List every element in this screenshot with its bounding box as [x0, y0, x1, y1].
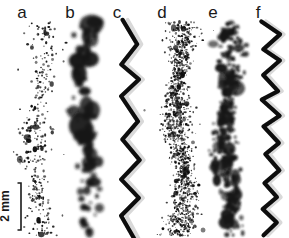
speckle-dot [41, 90, 44, 92]
speckle-dot [193, 167, 195, 170]
speckle-dot [36, 193, 37, 194]
speckle-dot [184, 50, 185, 51]
blob [234, 135, 237, 138]
speckle-dot [188, 213, 189, 214]
speckle-dot [196, 213, 199, 215]
speckle-dot [213, 30, 214, 31]
speckle-dot [187, 225, 190, 227]
blob [235, 105, 237, 109]
speckle-dot [179, 71, 181, 72]
speckle-dot [184, 35, 186, 37]
speckle-dot [28, 186, 29, 188]
speckle-dot [183, 124, 184, 125]
speckle-dot [35, 175, 36, 176]
speckle-dot [183, 100, 185, 102]
speckle-dot [186, 104, 189, 107]
speckle-dot [174, 104, 176, 106]
speckle-dot [184, 56, 186, 58]
speckle-dot [184, 222, 185, 224]
speckle-dot [50, 47, 52, 49]
speckle-dot [178, 156, 179, 157]
speckle-dot [184, 109, 186, 110]
speckle-dot [182, 128, 184, 129]
speckle-dot [175, 144, 177, 146]
speckle-dot [161, 217, 163, 219]
speckle-dot [27, 136, 29, 138]
speckle-dot [183, 214, 185, 215]
blob [229, 22, 233, 25]
panel-label-a: a [17, 3, 27, 22]
speckle-dot [33, 199, 35, 201]
blob [236, 24, 239, 28]
speckle-dot [162, 39, 164, 41]
speckle-dot [185, 51, 187, 54]
speckle-dot [25, 151, 28, 154]
speckle-dot [38, 126, 39, 127]
speckle-dot [168, 61, 169, 63]
speckle-dot [184, 134, 186, 135]
speckle-dot [172, 76, 173, 77]
speckle-dot [41, 71, 44, 74]
blob [96, 187, 102, 192]
speckle-dot [181, 189, 183, 191]
speckle-dot [184, 72, 186, 74]
speckle-dot [44, 26, 46, 29]
speckle-dot [42, 122, 43, 124]
speckle-dot [186, 44, 188, 46]
speckle-dot [168, 119, 169, 120]
speckle-dot [34, 131, 35, 132]
speckle-dot [34, 195, 35, 196]
speckle-dot [179, 36, 181, 37]
speckle-dot [188, 145, 190, 148]
speckle-dot [177, 84, 181, 89]
speckle-dot [182, 194, 183, 195]
speckle-dot [174, 60, 175, 62]
speckle-dot [33, 169, 36, 171]
speckle-dot [176, 173, 177, 174]
blob [208, 149, 210, 151]
speckle-dot [48, 217, 49, 218]
speckle-dot [180, 226, 181, 227]
speckle-dot [182, 207, 183, 209]
speckle-dot [41, 185, 43, 187]
speckle-dot [186, 151, 188, 153]
speckle-dot [44, 117, 46, 119]
speckle-dot [42, 158, 44, 160]
speckle-dot [43, 175, 46, 177]
speckle-dot [167, 116, 169, 118]
speckle-dot [181, 61, 182, 62]
speckle-dot [193, 21, 195, 23]
speckle-dot [184, 146, 186, 148]
speckle-dot [36, 217, 40, 224]
speckle-dot [186, 58, 188, 61]
speckle-dot [182, 162, 183, 163]
blob [216, 64, 221, 69]
speckle-dot [168, 82, 169, 83]
speckle-dot [185, 170, 186, 171]
speckle-dot [170, 116, 172, 118]
speckle-dot [189, 182, 191, 184]
speckle-dot [37, 144, 39, 145]
speckle-dot [177, 109, 178, 110]
speckle-dot [175, 181, 178, 183]
speckle-dot [173, 195, 175, 197]
speckle-dot [175, 32, 177, 35]
speckle-dot [40, 55, 41, 56]
speckle-dot [184, 38, 185, 39]
speckle-dot [37, 28, 39, 30]
speckle-dot [178, 162, 180, 164]
speckle-dot [184, 157, 186, 160]
speckle-dot [172, 124, 173, 125]
speckle-dot [167, 123, 169, 126]
blob [227, 60, 230, 63]
blob [233, 44, 244, 52]
speckle-dot [39, 86, 41, 88]
speckle-dot [28, 161, 30, 163]
blob [237, 142, 239, 144]
speckle-dot [201, 213, 203, 215]
speckle-dot [187, 173, 188, 174]
speckle-dot [189, 68, 190, 69]
blob [233, 26, 236, 30]
speckle-dot [175, 205, 178, 208]
speckle-dot [174, 93, 176, 95]
